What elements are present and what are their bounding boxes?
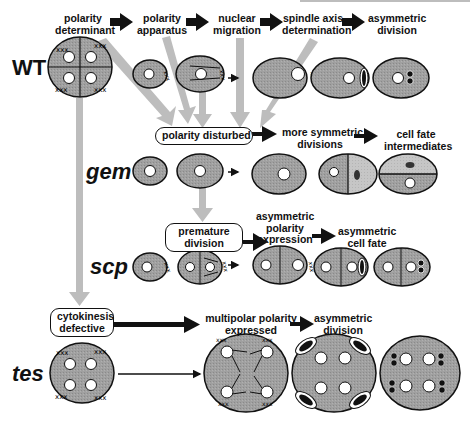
- wt-cell-migration: xxx: [253, 58, 318, 98]
- tes-cell-3: [292, 334, 376, 412]
- wt-cell-division: [373, 58, 429, 98]
- wt-step-label: polaritydeterminant: [55, 13, 111, 36]
- scp-cell-5: [374, 248, 430, 286]
- premature-division-box: prematuredivision: [165, 223, 243, 252]
- gem-cell-4: [319, 154, 377, 194]
- tes-cell-2: xxx xxx xxx xxx: [204, 334, 288, 412]
- diagram-graphics: xxx xxx xxx xxx xxx xxx xxx: [0, 0, 470, 422]
- scp-step-label: asymmetricpolarityexpression: [256, 211, 314, 246]
- wt-cell-spindle: [311, 58, 369, 98]
- svg-text:xxx: xxx: [94, 86, 106, 94]
- svg-text:xxx: xxx: [56, 349, 68, 357]
- gem-cell-2: [177, 154, 223, 188]
- scp-cell-4: [314, 248, 368, 286]
- tes-step-label: multipolar polarityexpressed: [202, 313, 300, 336]
- row-label-wt: WT: [12, 55, 46, 81]
- tes-step-label: asymmetricdivision: [314, 313, 372, 336]
- wt-cell-apparatus-spindle: xxx: [176, 56, 227, 92]
- diagram: xxx xxx xxx xxx xxx xxx xxx: [0, 0, 470, 422]
- tes-cell-1: xxx xxx xxx xxx: [50, 343, 114, 403]
- scp-cell-1: xxx: [133, 253, 173, 281]
- svg-text:xxx: xxx: [94, 42, 106, 50]
- svg-text:xxx: xxx: [55, 393, 67, 401]
- polarity-disturbed-box: polarity disturbed: [155, 127, 253, 145]
- svg-text:xxx: xxx: [262, 400, 273, 407]
- row-label-gem: gem: [86, 159, 131, 185]
- wt-step-label: spindle axisdetermination: [282, 13, 344, 36]
- svg-text:xxx: xxx: [56, 46, 68, 54]
- cytokinesis-defective-box: cytokinesisdefective: [50, 308, 114, 337]
- gem-step-label: cell fateintermediates: [384, 129, 448, 152]
- gray-arrow-to-tes: [69, 98, 90, 306]
- scp-cell-3: xxx: [253, 246, 316, 284]
- wt-cell-apparatus: xxx: [133, 60, 173, 88]
- svg-text:xxx: xxx: [94, 394, 106, 402]
- wt-step-label: polarityapparatus: [136, 13, 188, 36]
- gem-cell-5: [379, 154, 437, 194]
- svg-text:xxx: xxx: [218, 400, 229, 407]
- svg-text:xxx: xxx: [262, 336, 273, 343]
- row-label-tes: tes: [12, 361, 44, 387]
- wt-step-label: nuclearmigration: [212, 13, 262, 36]
- svg-text:xxx: xxx: [94, 348, 106, 356]
- scp-step-label: asymmetriccell fate: [338, 226, 396, 249]
- gem-cell-1: [133, 157, 167, 185]
- svg-text:xxx: xxx: [221, 261, 230, 273]
- gem-step-label: more symmetricdivisions: [282, 127, 358, 150]
- wt-cell-determinant: xxx xxx xxx xxx: [48, 37, 112, 97]
- tes-cell-4: [380, 336, 460, 410]
- svg-text:xxx: xxx: [216, 336, 227, 343]
- gem-cell-3: [252, 154, 306, 194]
- row-label-scp: scp: [90, 254, 128, 280]
- wt-step-label: asymmetricdivision: [368, 13, 426, 36]
- scp-cell-2: xxx: [178, 250, 230, 284]
- svg-text:xxx: xxx: [55, 86, 67, 94]
